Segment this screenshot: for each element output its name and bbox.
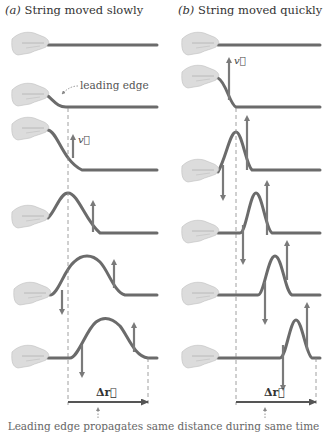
hand-icon bbox=[12, 32, 49, 55]
leading-edge-label: leading edge bbox=[80, 79, 149, 91]
leading-edge-pointer bbox=[63, 86, 78, 93]
hand-icon bbox=[12, 345, 49, 368]
hand-icon bbox=[182, 159, 219, 182]
velocity-arrows bbox=[62, 60, 307, 388]
hand-icon bbox=[182, 220, 219, 243]
hand-icon bbox=[182, 65, 219, 88]
hand-icon bbox=[14, 282, 51, 305]
hand-icon bbox=[12, 205, 49, 228]
hand-icon bbox=[182, 345, 219, 368]
hand-icon bbox=[12, 117, 49, 140]
hand-icon bbox=[182, 282, 219, 305]
hand-icon bbox=[182, 32, 219, 55]
wave-diagram bbox=[0, 0, 327, 434]
displacement-label-a: Δr⃗ bbox=[96, 386, 117, 399]
figure-caption: Leading edge propagates same distance du… bbox=[0, 420, 327, 432]
displacement-label-b: Δr⃗ bbox=[264, 386, 285, 399]
hand-icon bbox=[12, 83, 49, 106]
panel-b-strings bbox=[218, 45, 320, 358]
velocity-label-a: v⃗ bbox=[78, 134, 90, 145]
velocity-label-b: v⃗ bbox=[234, 55, 246, 66]
